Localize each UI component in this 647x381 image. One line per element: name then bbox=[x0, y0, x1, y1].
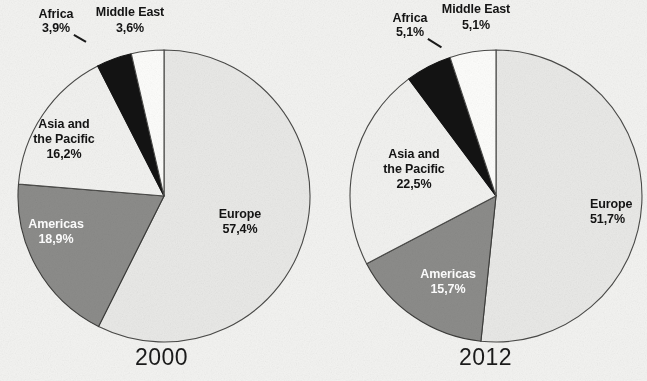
label-americas-value-2012: 15,7% bbox=[402, 283, 494, 297]
label-europe-name-2000: Europe bbox=[198, 208, 282, 222]
pie-chart-figure: Africa 3,9% Middle East 3,6% Asia and th… bbox=[0, 0, 647, 381]
label-middleeast-value-2012: 5,1% bbox=[428, 19, 524, 33]
label-middleeast-name-2000: Middle East bbox=[82, 6, 178, 20]
label-asia-name2-2012: the Pacific bbox=[364, 163, 464, 177]
label-asia-value-2000: 16,2% bbox=[14, 148, 114, 162]
label-americas-value-2000: 18,9% bbox=[10, 233, 102, 247]
label-asia-name2-2000: the Pacific bbox=[14, 133, 114, 147]
label-europe-value-2000: 57,4% bbox=[198, 223, 282, 237]
pie-2000: Africa 3,9% Middle East 3,6% Asia and th… bbox=[0, 0, 323, 345]
pie-svg-2000 bbox=[14, 46, 314, 346]
label-asia-value-2012: 22,5% bbox=[364, 178, 464, 192]
label-middleeast-value-2000: 3,6% bbox=[82, 22, 178, 36]
year-label-2000: 2000 bbox=[0, 344, 323, 371]
chart-panel-2000: Africa 3,9% Middle East 3,6% Asia and th… bbox=[0, 0, 323, 381]
year-label-2012: 2012 bbox=[324, 344, 647, 371]
label-middleeast-name-2012: Middle East bbox=[428, 3, 524, 17]
label-asia-name1-2000: Asia and bbox=[14, 118, 114, 132]
label-asia-name1-2012: Asia and bbox=[364, 148, 464, 162]
pie-svg-2012 bbox=[346, 46, 646, 346]
label-europe-value-2012: 51,7% bbox=[590, 213, 625, 227]
pie-2012: Africa 5,1% Middle East 5,1% Asia and th… bbox=[324, 0, 647, 345]
chart-panel-2012: Africa 5,1% Middle East 5,1% Asia and th… bbox=[324, 0, 647, 381]
label-europe-name-2012: Europe bbox=[590, 198, 632, 212]
label-americas-name-2000: Americas bbox=[10, 218, 102, 232]
label-americas-name-2012: Americas bbox=[402, 268, 494, 282]
slice-europe bbox=[481, 50, 642, 342]
